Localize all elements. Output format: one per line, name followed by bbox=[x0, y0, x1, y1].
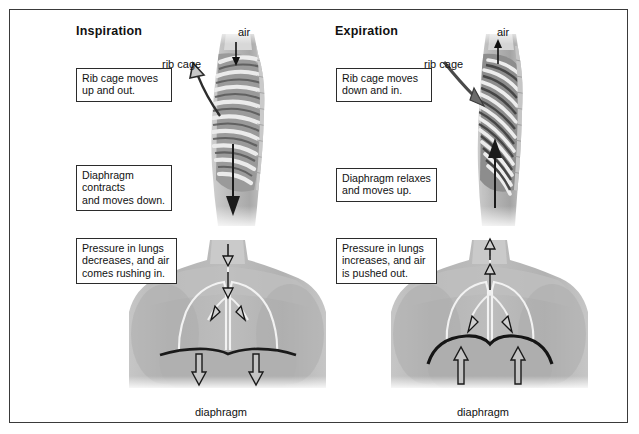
diaphragm-label-expiration: diaphragm bbox=[457, 406, 509, 418]
inspiration-rib-cage-box: Rib cage moves up and out. bbox=[76, 68, 172, 102]
inspiration-diaphragm-box: Diaphragm contracts and moves down. bbox=[76, 165, 172, 211]
heading-inspiration: Inspiration bbox=[76, 24, 142, 38]
inspiration-side-view bbox=[160, 20, 300, 230]
air-label-expiration: air bbox=[497, 26, 509, 38]
expiration-diaphragm-box: Diaphragm relaxes and moves up. bbox=[336, 168, 437, 202]
expiration-pressure-box: Pressure in lungs increases, and air is … bbox=[336, 238, 437, 284]
figure-frame: Inspiration Expiration bbox=[9, 9, 628, 423]
box-line: down and in. bbox=[342, 84, 426, 96]
box-line: Pressure in lungs bbox=[82, 242, 171, 254]
rib-cage-side-inspiration bbox=[213, 32, 269, 192]
box-line: up and out. bbox=[82, 84, 166, 96]
heading-expiration: Expiration bbox=[335, 24, 398, 38]
expiration-rib-cage-box: Rib cage moves down and in. bbox=[336, 68, 432, 102]
air-label-inspiration: air bbox=[238, 26, 250, 38]
box-line: and moves up. bbox=[342, 184, 431, 196]
diaphragm-label-inspiration: diaphragm bbox=[195, 406, 247, 418]
box-line: increases, and air bbox=[342, 254, 431, 266]
box-line: and moves down. bbox=[82, 194, 166, 206]
box-line: comes rushing in. bbox=[82, 267, 171, 279]
box-line: contracts bbox=[82, 181, 166, 193]
rib-cage-side-expiration bbox=[479, 32, 528, 194]
inspiration-pressure-box: Pressure in lungs decreases, and air com… bbox=[76, 238, 177, 284]
box-line: decreases, and air bbox=[82, 254, 171, 266]
box-line: Diaphragm bbox=[82, 169, 166, 181]
box-line: Diaphragm relaxes bbox=[342, 172, 431, 184]
expiration-side-view bbox=[422, 20, 562, 230]
box-line: Rib cage moves bbox=[342, 72, 426, 84]
figure-root: Inspiration Expiration bbox=[0, 0, 639, 434]
box-line: is pushed out. bbox=[342, 267, 431, 279]
box-line: Pressure in lungs bbox=[342, 242, 431, 254]
box-line: Rib cage moves bbox=[82, 72, 166, 84]
